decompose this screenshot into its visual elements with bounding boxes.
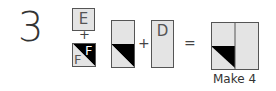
plus-small: + xyxy=(79,27,90,42)
piece-tall-rect xyxy=(111,20,135,68)
piece-f-hst: F F xyxy=(72,43,96,67)
step-number: 3 xyxy=(18,4,43,50)
result-block xyxy=(211,22,259,70)
equals-sign: = xyxy=(184,35,196,51)
f-label-dark: F xyxy=(85,43,92,58)
block-icon xyxy=(211,22,259,70)
result-caption: Make 4 xyxy=(213,72,256,86)
plus-sign: + xyxy=(138,35,150,51)
f-label-light: F xyxy=(74,52,81,67)
unit-icon xyxy=(111,20,135,68)
piece-d-rect: D xyxy=(151,20,174,68)
piece-d-label: D xyxy=(152,21,173,41)
